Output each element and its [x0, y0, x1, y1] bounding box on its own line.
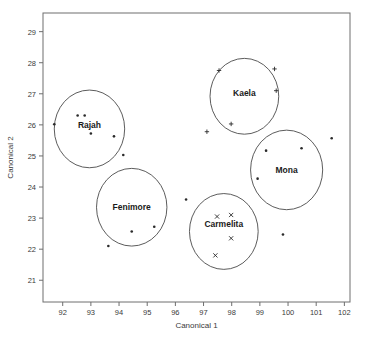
data-point-kaela	[205, 130, 209, 134]
x-axis-tick-label: 96	[171, 308, 179, 317]
cluster-circle-carmelita	[189, 194, 258, 270]
data-point-unclustered	[185, 198, 188, 201]
x-axis-tick-label: 95	[143, 308, 151, 317]
y-axis-tick-label: 29	[28, 28, 36, 37]
cluster-label-rajah: Rajah	[78, 120, 101, 130]
y-axis-tick-label: 23	[28, 214, 36, 223]
cluster-label-mona: Mona	[276, 165, 298, 175]
y-axis-tick-label: 28	[28, 59, 36, 68]
data-point-mona	[282, 233, 285, 236]
cluster-label-carmelita: Carmelita	[204, 219, 243, 229]
data-point-kaela	[229, 122, 233, 126]
x-axis-tick-label: 97	[199, 308, 207, 317]
data-point-rajah	[76, 114, 79, 117]
x-axis-tick-label: 102	[338, 308, 351, 317]
data-point-mona	[300, 147, 303, 150]
cluster-label-kaela: Kaela	[233, 88, 256, 98]
data-point-mona	[265, 149, 268, 152]
y-axis-tick-label: 25	[28, 152, 36, 161]
chart-container: 9293949596979899100101102212223242526272…	[0, 0, 371, 347]
y-axis-tick-label: 26	[28, 121, 36, 130]
plot-frame	[43, 13, 350, 302]
x-axis-tick-label: 99	[256, 308, 264, 317]
data-point-carmelita	[213, 253, 217, 257]
x-axis-tick-label: 101	[310, 308, 323, 317]
y-axis-tick-label: 22	[28, 245, 36, 254]
y-axis-tick-label: 27	[28, 90, 36, 99]
data-point-fenimore	[107, 245, 110, 248]
data-point-rajah	[83, 114, 86, 117]
data-point-carmelita	[215, 214, 219, 218]
y-axis-tick-label: 24	[28, 183, 36, 192]
data-point-carmelita	[229, 213, 233, 217]
data-point-rajah	[122, 154, 125, 157]
y-axis-tick-label: 21	[28, 276, 36, 285]
x-axis-tick-label: 100	[282, 308, 295, 317]
cluster-label-fenimore: Fenimore	[113, 202, 152, 212]
x-axis-tick-label: 92	[59, 308, 67, 317]
data-point-rajah	[53, 123, 56, 126]
y-axis-title: Canonical 2	[6, 136, 15, 179]
data-point-mona	[330, 137, 333, 140]
data-point-mona	[256, 177, 259, 180]
data-point-rajah	[90, 132, 93, 135]
data-point-kaela	[272, 67, 276, 71]
canonical-discriminant-scatter-plot: 9293949596979899100101102212223242526272…	[0, 0, 371, 347]
data-point-carmelita	[229, 236, 233, 240]
x-axis-title: Canonical 1	[175, 321, 218, 330]
data-point-rajah	[113, 135, 116, 138]
data-point-fenimore	[130, 230, 133, 233]
x-axis-tick-label: 93	[87, 308, 95, 317]
x-axis-tick-label: 94	[115, 308, 123, 317]
data-point-fenimore	[153, 225, 156, 228]
x-axis-tick-label: 98	[228, 308, 236, 317]
